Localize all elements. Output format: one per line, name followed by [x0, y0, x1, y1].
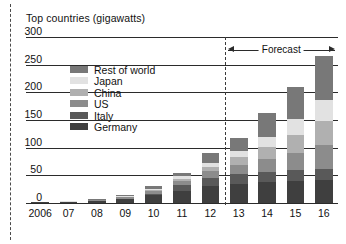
bar-segment-11-rest-of-world — [173, 173, 191, 177]
bar-segment-16-italy — [315, 169, 333, 180]
bar-11 — [173, 37, 191, 203]
bar-segment-09-japan — [116, 196, 134, 197]
bar-segment-10-italy — [145, 194, 163, 196]
x-tick-label-16: 16 — [310, 207, 338, 219]
bar-2006 — [31, 37, 49, 203]
bar-segment-11-japan — [173, 176, 191, 179]
bar-12 — [202, 37, 220, 203]
bar-segment-07-japan — [60, 201, 78, 202]
bar-segment-12-germany — [202, 186, 220, 203]
bar-segment-12-japan — [202, 163, 220, 167]
bar-13 — [230, 37, 248, 203]
x-tick-label-11: 11 — [168, 207, 196, 219]
bar-10 — [145, 37, 163, 203]
x-tick-label-09: 09 — [111, 207, 139, 219]
bar-segment-14-japan — [258, 137, 276, 147]
bar-segment-11-us — [173, 181, 191, 185]
arrow-left-icon — [228, 46, 234, 52]
legend-swatch-icon — [70, 112, 88, 119]
bar-segment-13-germany — [230, 184, 248, 203]
forecast-divider-line — [225, 37, 226, 205]
x-tick-label-13: 13 — [225, 207, 253, 219]
bar-segment-12-rest-of-world — [202, 153, 220, 163]
x-axis-baseline — [26, 203, 338, 204]
bar-segment-10-japan — [145, 189, 163, 191]
bar-segment-16-japan — [315, 100, 333, 121]
legend-swatch-icon — [70, 89, 88, 96]
bar-segment-16-rest-of-world — [315, 56, 333, 100]
bar-segment-13-us — [230, 165, 248, 174]
bar-segment-12-china — [202, 167, 220, 171]
legend-label: Italy — [94, 110, 113, 122]
bar-segment-08-rest-of-world — [88, 199, 106, 200]
bar-segment-15-china — [287, 135, 305, 153]
bar-15 — [287, 37, 305, 203]
x-tick-label-15: 15 — [281, 207, 309, 219]
bar-segment-15-italy — [287, 170, 305, 181]
bar-segment-14-us — [258, 159, 276, 172]
legend-label: Rest of world — [94, 64, 155, 76]
bar-segment-14-china — [258, 147, 276, 159]
bar-14 — [258, 37, 276, 203]
arrow-right-icon — [329, 46, 335, 52]
bar-segment-14-germany — [258, 182, 276, 203]
bar-segment-11-italy — [173, 185, 191, 191]
x-tick-label-14: 14 — [253, 207, 281, 219]
bar-segment-11-china — [173, 179, 191, 181]
x-tick-label-12: 12 — [196, 207, 224, 219]
bar-segment-09-rest-of-world — [116, 195, 134, 196]
bar-segment-12-us — [202, 171, 220, 177]
x-tick-label-2006: 2006 — [26, 207, 54, 219]
legend-swatch-icon — [70, 123, 88, 130]
forecast-label: Forecast — [259, 44, 304, 55]
bar-segment-13-china — [230, 157, 248, 165]
bar-segment-10-us — [145, 191, 163, 193]
bar-segment-13-rest-of-world — [230, 138, 248, 151]
legend-swatch-icon — [70, 66, 88, 73]
bar-segment-15-rest-of-world — [287, 87, 305, 119]
bar-segment-10-rest-of-world — [145, 186, 163, 188]
bar-segment-12-italy — [202, 178, 220, 187]
x-tick-label-07: 07 — [54, 207, 82, 219]
bar-segment-16-germany — [315, 180, 333, 203]
bar-segment-10-china — [145, 190, 163, 191]
bar-segment-13-italy — [230, 174, 248, 183]
bar-segment-13-japan — [230, 151, 248, 157]
left-crop-dashed-rule — [10, 4, 11, 240]
legend-swatch-icon — [70, 77, 88, 84]
legend-label: Japan — [94, 75, 123, 87]
bar-07 — [60, 37, 78, 203]
legend-label: Germany — [94, 121, 137, 133]
y-tick-label-300: 300 — [16, 25, 42, 37]
bar-segment-09-us — [116, 197, 134, 198]
forecast-span: Forecast — [228, 49, 335, 61]
bar-09 — [116, 37, 134, 203]
bar-segment-11-germany — [173, 191, 191, 203]
bar-segment-16-us — [315, 145, 333, 168]
bar-segment-15-japan — [287, 119, 305, 134]
bar-segment-15-us — [287, 153, 305, 171]
bar-segment-14-italy — [258, 172, 276, 182]
bar-segment-10-germany — [145, 195, 163, 203]
legend-swatch-icon — [70, 100, 88, 107]
bar-segment-15-germany — [287, 181, 305, 203]
chart-figure: Top countries (gigawatts) 05010015020025… — [0, 0, 346, 244]
bar-16 — [315, 37, 333, 203]
legend-label: China — [94, 87, 121, 99]
x-tick-label-08: 08 — [83, 207, 111, 219]
bar-segment-16-china — [315, 121, 333, 145]
x-tick-label-10: 10 — [139, 207, 167, 219]
bar-segment-14-rest-of-world — [258, 113, 276, 136]
legend-label: US — [94, 98, 109, 110]
chart-title: Top countries (gigawatts) — [26, 12, 145, 24]
